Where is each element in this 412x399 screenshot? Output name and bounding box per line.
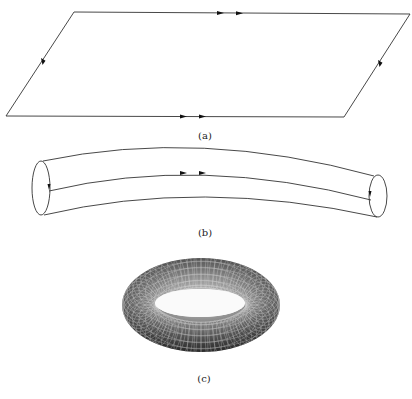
torus-hole <box>155 289 245 317</box>
cylinder-top-edge <box>43 148 374 176</box>
arrow-top-1 <box>217 11 224 15</box>
arrow-bottom-1 <box>180 115 187 119</box>
seam-arrow-2 <box>199 171 206 175</box>
cylinder-seam <box>49 175 371 200</box>
arrow-top-2 <box>236 11 243 15</box>
panel-c-label: (c) <box>197 373 211 384</box>
panel-b: (b) <box>32 148 387 238</box>
cylinder-left-end <box>32 161 50 215</box>
cylinder-right-end <box>369 175 387 217</box>
panel-a: (a) <box>6 11 410 141</box>
arrow-bottom-2 <box>199 115 206 119</box>
panel-c: (c) <box>122 254 280 384</box>
panel-b-label: (b) <box>198 227 212 238</box>
parallelogram <box>6 12 410 117</box>
seam-arrow-1 <box>180 171 187 175</box>
panel-a-label: (a) <box>198 130 212 141</box>
cylinder-bottom-edge <box>44 197 377 217</box>
figure: (a) (b) (c) <box>0 0 412 399</box>
